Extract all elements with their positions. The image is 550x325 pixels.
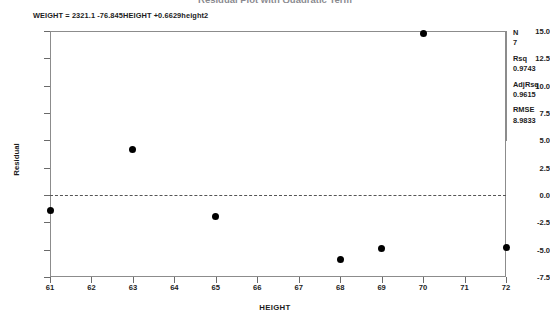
- y-tick-mark: [44, 140, 50, 141]
- x-tick-mark: [382, 277, 383, 283]
- model-equation: WEIGHT = 2321.1 -76.845HEIGHT +0.6629hei…: [33, 11, 208, 20]
- data-point: [420, 30, 427, 37]
- stat-label: Rsq: [513, 54, 550, 64]
- y-axis: Residual: [0, 31, 50, 277]
- stat-label: AdjRsq: [513, 80, 550, 90]
- data-point: [47, 207, 54, 214]
- x-tick-mark: [299, 277, 300, 283]
- stat-item: N7: [513, 28, 550, 49]
- y-tick-mark: [44, 86, 50, 87]
- stat-value: 0.9615: [513, 90, 550, 100]
- y-tick-label: 5.0: [516, 136, 550, 145]
- y-axis-title: Residual: [12, 100, 21, 220]
- y-tick-mark: [44, 222, 50, 223]
- x-tick-label: 65: [196, 283, 236, 292]
- y-tick-mark: [44, 168, 50, 169]
- x-tick-label: 63: [113, 283, 153, 292]
- stat-label: RMSE: [513, 105, 550, 115]
- x-tick-mark: [257, 277, 258, 283]
- data-point: [129, 146, 136, 153]
- x-axis-title: HEIGHT: [0, 303, 550, 312]
- stat-value: 0.9743: [513, 64, 550, 74]
- y-tick-label: -2.5: [516, 218, 550, 227]
- y-tick-label: -7.5: [516, 273, 550, 282]
- y-tick-label: 2.5: [516, 163, 550, 172]
- chart-title: Residual Plot with Quadratic Term: [0, 0, 550, 3]
- x-tick-mark: [50, 277, 51, 283]
- x-tick-mark: [133, 277, 134, 283]
- y-tick-label: 0.0: [516, 191, 550, 200]
- stat-value: 7: [513, 38, 550, 48]
- stats-divider: [506, 31, 507, 141]
- x-tick-label: 61: [30, 283, 70, 292]
- plot-area: [50, 31, 506, 277]
- x-tick-mark: [216, 277, 217, 283]
- statistics-panel: N7Rsq0.9743AdjRsq0.9615RMSE8.9833: [513, 28, 550, 131]
- data-point: [503, 244, 510, 251]
- x-tick-label: 64: [154, 283, 194, 292]
- y-tick-mark: [44, 31, 50, 32]
- y-tick-mark: [44, 250, 50, 251]
- y-tick-mark: [44, 58, 50, 59]
- x-tick-label: 72: [486, 283, 526, 292]
- data-point: [337, 256, 344, 263]
- x-tick-label: 62: [71, 283, 111, 292]
- x-tick-label: 69: [362, 283, 402, 292]
- y-tick-mark: [44, 113, 50, 114]
- x-tick-label: 70: [403, 283, 443, 292]
- stat-item: RMSE8.9833: [513, 105, 550, 126]
- reference-line: [50, 195, 506, 196]
- x-tick-mark: [423, 277, 424, 283]
- x-tick-label: 71: [445, 283, 485, 292]
- x-tick-mark: [174, 277, 175, 283]
- residual-plot-chart: Residual Plot with Quadratic Term WEIGHT…: [0, 0, 550, 325]
- x-tick-mark: [91, 277, 92, 283]
- x-tick-mark: [506, 277, 507, 283]
- stat-label: N: [513, 28, 550, 38]
- x-tick-label: 66: [237, 283, 277, 292]
- stat-value: 8.9833: [513, 116, 550, 126]
- x-tick-label: 67: [279, 283, 319, 292]
- x-tick-label: 68: [320, 283, 360, 292]
- stat-item: Rsq0.9743: [513, 54, 550, 75]
- stat-item: AdjRsq0.9615: [513, 80, 550, 101]
- x-tick-mark: [465, 277, 466, 283]
- y-tick-label: -5.0: [516, 245, 550, 254]
- x-tick-mark: [340, 277, 341, 283]
